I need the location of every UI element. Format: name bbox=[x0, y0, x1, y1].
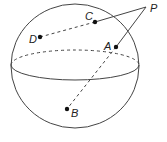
segment-pc bbox=[95, 7, 146, 22]
equator-back-dashed bbox=[11, 50, 139, 65]
label-a: A bbox=[103, 40, 111, 52]
label-p: P bbox=[150, 2, 158, 14]
segment-cd-dashed bbox=[40, 22, 95, 37]
label-c: C bbox=[85, 10, 93, 22]
point-b bbox=[65, 107, 69, 111]
equator-front-solid bbox=[11, 65, 139, 80]
sphere-diagram: P C D A B bbox=[0, 0, 167, 142]
label-d: D bbox=[29, 33, 37, 45]
point-c bbox=[93, 20, 97, 24]
point-a bbox=[114, 45, 118, 49]
point-d bbox=[38, 35, 42, 39]
segment-pa bbox=[116, 7, 146, 47]
label-b: B bbox=[71, 107, 78, 119]
